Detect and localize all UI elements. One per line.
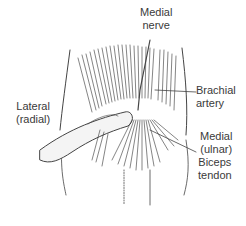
label-line: Medial (200, 130, 232, 143)
label-line: nerve (140, 19, 172, 32)
label-lateral-radial: Lateral (radial) (16, 100, 50, 126)
label-line: Biceps (198, 156, 232, 169)
label-line: (ulnar) (200, 143, 232, 156)
label-line: Brachial (196, 84, 236, 97)
label-line: Lateral (16, 100, 50, 113)
label-medial-ulnar: Medial (ulnar) (200, 130, 232, 156)
label-line: (radial) (16, 113, 50, 126)
label-biceps-tendon: Biceps tendon (198, 156, 232, 182)
label-line: Medial (140, 6, 172, 19)
label-brachial-artery: Brachial artery (196, 84, 236, 110)
label-line: artery (196, 97, 236, 110)
label-line: tendon (198, 169, 232, 182)
label-medial-nerve: Medial nerve (140, 6, 172, 32)
